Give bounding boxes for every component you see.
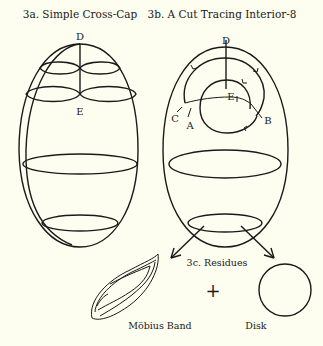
point-a-label: A (185, 120, 194, 131)
arrow-to-mobius-icon (171, 226, 204, 258)
ring-lower (23, 154, 137, 174)
point-b-label: B (264, 115, 271, 126)
disk-label: Disk (245, 320, 267, 331)
leader-c (177, 107, 182, 112)
panel-c-residues: 3c. Residues + Möbius Band Disk (91, 254, 311, 331)
panel-b-title: 3b. A Cut Tracing Interior-8 (148, 8, 297, 20)
disk-shape (259, 264, 311, 316)
point-c-label: C (171, 113, 179, 124)
panel-a-simple-cross-cap: 3a. Simple Cross-Cap D E (19, 8, 138, 247)
ring-middle (26, 87, 136, 102)
panel-a-title: 3a. Simple Cross-Cap (23, 8, 138, 20)
decomposition-arrows (171, 226, 274, 258)
point-e-label: E (227, 91, 234, 102)
point-e-label: E (76, 106, 83, 117)
cross-cap-surface (19, 44, 138, 247)
point-d-label: D (76, 31, 84, 42)
cut-outer-loop (184, 58, 264, 116)
mobius-band-shape (91, 254, 158, 319)
leader-a (188, 108, 191, 117)
mobius-band-label: Möbius Band (128, 320, 191, 331)
cross-cap-diagram: 3a. Simple Cross-Cap D E 3b. A Cut Traci… (0, 0, 323, 346)
plus-sign: + (205, 280, 220, 301)
panel-c-title: 3c. Residues (187, 257, 248, 268)
ring-bottom (42, 215, 118, 231)
cut-inner-loop (200, 80, 257, 133)
ring-bottom (188, 214, 262, 232)
panel-b-cut-tracing: 3b. A Cut Tracing Interior-8 D E C A B (148, 8, 297, 247)
ring-lower (169, 150, 281, 178)
